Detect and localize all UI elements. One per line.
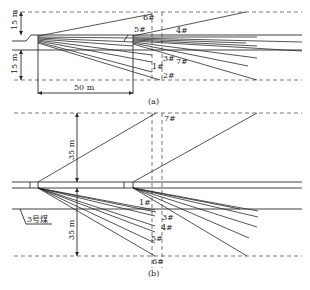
dim-label-upper: 35 m xyxy=(67,139,76,160)
label-7: 7# xyxy=(176,57,188,66)
label-5: 5# xyxy=(134,25,146,34)
panel-a: 15 m 15 m 50 m 6# 5# 4# 3# 7# 1# 2# (a) xyxy=(10,9,302,106)
label-2: 2# xyxy=(163,71,175,80)
caption-b: (b) xyxy=(148,269,159,278)
label-3: 3# xyxy=(162,213,174,222)
label-1: 1# xyxy=(152,62,164,71)
fan-site-1 xyxy=(38,14,160,80)
dim-label-lower: 35 m xyxy=(67,219,76,240)
panel-b: 35 m 35 m 3号煤 7# 1# 3# 4# 5# 6# (b) xyxy=(12,113,302,278)
label-6: 6# xyxy=(143,13,155,22)
label-7: 7# xyxy=(164,114,176,123)
dimension-15m-upper: 15 m xyxy=(10,9,23,35)
dimension-35m-upper: 35 m xyxy=(67,113,79,182)
label-6: 6# xyxy=(152,257,164,266)
seam-label: 3号煤 xyxy=(27,214,48,224)
label-1: 1# xyxy=(139,198,151,207)
fan-site-1 xyxy=(38,113,156,256)
label-4: 4# xyxy=(176,26,188,35)
label-4: 4# xyxy=(161,223,173,232)
dim-label-lower: 15 m xyxy=(10,53,19,74)
dim-label-upper: 15 m xyxy=(10,9,19,30)
label-3: 3# xyxy=(163,54,175,63)
dimension-50m: 50 m xyxy=(38,83,133,95)
dimension-15m-lower: 15 m xyxy=(10,50,23,80)
caption-a: (a) xyxy=(148,97,159,106)
dim-label-width: 50 m xyxy=(74,83,95,92)
borehole-layout-diagram: 15 m 15 m 50 m 6# 5# 4# 3# 7# 1# 2# (a) xyxy=(0,0,310,290)
label-5: 5# xyxy=(151,234,163,243)
